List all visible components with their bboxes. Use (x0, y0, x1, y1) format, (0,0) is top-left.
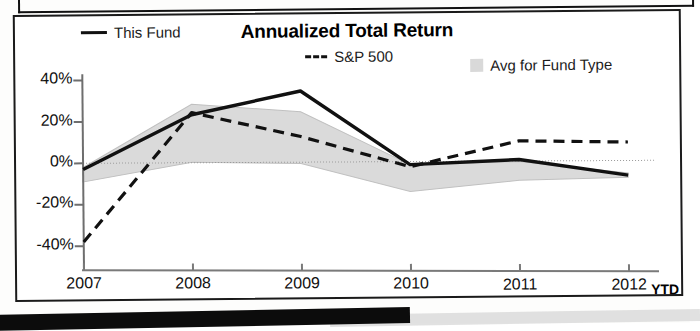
x-axis-suffix-label: YTD (651, 281, 679, 297)
x-axis-tick-label: 2008 (161, 274, 225, 293)
band-avg-for-fund-type (83, 101, 629, 195)
x-axis-tick-label: 2007 (52, 274, 116, 293)
y-axis-tick-label: 40% (16, 70, 72, 88)
y-axis-tick-label: -20% (17, 194, 73, 212)
y-axis-tick-label: -40% (18, 235, 74, 253)
chart-panel: Annualized Total Return This Fund S&P 50… (13, 9, 683, 302)
x-axis-tick-label: 2010 (379, 275, 443, 294)
x-axis-tick-label: 2009 (270, 274, 334, 293)
chart-plot-area (15, 11, 685, 304)
y-axis-tick-label: 0% (17, 152, 73, 170)
x-axis-tick-label: 2011 (488, 275, 552, 294)
chart-inner: Annualized Total Return This Fund S&P 50… (15, 11, 681, 300)
y-axis-tick-label: 20% (17, 111, 73, 129)
